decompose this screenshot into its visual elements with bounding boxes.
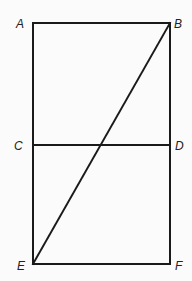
- label-c: C: [14, 139, 23, 153]
- label-d: D: [175, 139, 184, 153]
- label-f: F: [175, 259, 183, 273]
- geometry-diagram: A B C D E F: [0, 0, 192, 281]
- label-e: E: [17, 259, 26, 273]
- segment-eb: [33, 23, 170, 264]
- label-b: B: [174, 17, 182, 31]
- label-a: A: [15, 17, 24, 31]
